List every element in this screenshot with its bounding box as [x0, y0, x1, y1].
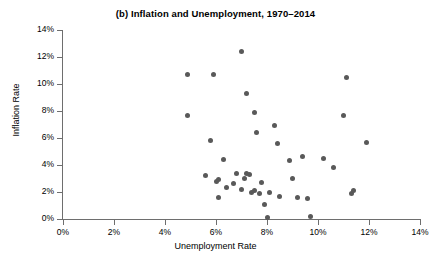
scatter-point [331, 165, 336, 170]
y-tick-mark [57, 219, 62, 220]
scatter-point [321, 156, 326, 161]
y-tick-mark [57, 30, 62, 31]
x-axis-title: Unemployment Rate [0, 241, 431, 251]
scatter-point [234, 171, 239, 176]
chart-title: (b) Inflation and Unemployment, 1970–201… [0, 8, 431, 19]
y-tick-label: 6% [18, 132, 54, 142]
y-tick-mark [57, 165, 62, 166]
scatter-point [216, 195, 221, 200]
x-tick-label: 0% [43, 227, 83, 237]
y-tick-mark [57, 111, 62, 112]
scatter-point [265, 215, 270, 220]
scatter-point [262, 202, 267, 207]
y-tick-label: 12% [18, 51, 54, 61]
scatter-point [290, 176, 295, 181]
chart-figure: (b) Inflation and Unemployment, 1970–201… [0, 0, 431, 264]
scatter-point [252, 110, 257, 115]
scatter-point [239, 187, 244, 192]
y-tick-mark [57, 138, 62, 139]
x-tick-mark [165, 220, 166, 225]
y-axis-title: Inflation Rate [11, 45, 21, 175]
y-tick-label: 0% [18, 213, 54, 223]
scatter-point [267, 190, 272, 195]
scatter-point [257, 191, 262, 196]
scatter-point [341, 113, 346, 118]
x-tick-label: 14% [400, 227, 431, 237]
scatter-point [247, 172, 252, 177]
scatter-point [252, 188, 257, 193]
y-tick-mark [57, 192, 62, 193]
scatter-point [344, 75, 349, 80]
x-tick-mark [114, 220, 115, 225]
x-tick-mark [216, 220, 217, 225]
x-tick-label: 12% [349, 227, 389, 237]
scatter-point [275, 141, 280, 146]
y-tick-label: 4% [18, 159, 54, 169]
y-tick-label: 14% [18, 24, 54, 34]
x-axis-line [62, 219, 421, 220]
scatter-point [242, 176, 247, 181]
scatter-point [295, 195, 300, 200]
y-tick-mark [57, 84, 62, 85]
scatter-point [308, 214, 313, 219]
x-tick-label: 4% [145, 227, 185, 237]
y-tick-mark [57, 57, 62, 58]
x-tick-mark [267, 220, 268, 225]
x-tick-label: 10% [298, 227, 338, 237]
scatter-point [211, 72, 216, 77]
y-tick-label: 2% [18, 186, 54, 196]
x-tick-label: 6% [196, 227, 236, 237]
x-tick-label: 8% [247, 227, 287, 237]
x-tick-mark [420, 220, 421, 225]
y-tick-label: 10% [18, 78, 54, 88]
x-tick-mark [369, 220, 370, 225]
scatter-point [244, 91, 249, 96]
x-tick-mark [318, 220, 319, 225]
x-tick-mark [63, 220, 64, 225]
x-tick-label: 2% [94, 227, 134, 237]
scatter-point [364, 140, 369, 145]
y-tick-label: 8% [18, 105, 54, 115]
scatter-point [277, 194, 282, 199]
